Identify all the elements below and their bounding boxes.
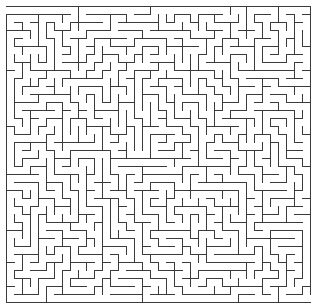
maze-grid[interactable]	[0, 0, 319, 306]
